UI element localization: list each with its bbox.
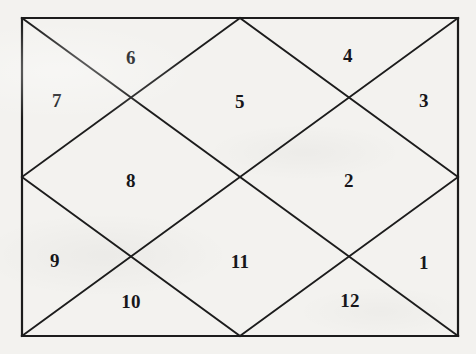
house-number-6: 6: [126, 48, 136, 67]
north-indian-chart: 123456789101112: [0, 0, 476, 354]
house-number-11: 11: [231, 252, 250, 271]
house-number-4: 4: [343, 46, 353, 65]
house-number-1: 1: [419, 253, 429, 272]
house-number-10: 10: [121, 292, 141, 311]
house-number-2: 2: [344, 171, 354, 190]
chart-line-art: [0, 0, 476, 354]
house-number-8: 8: [126, 171, 136, 190]
house-number-7: 7: [52, 91, 62, 110]
house-number-3: 3: [419, 91, 429, 110]
house-number-12: 12: [340, 291, 360, 310]
house-number-5: 5: [235, 92, 245, 111]
house-number-9: 9: [50, 251, 60, 270]
